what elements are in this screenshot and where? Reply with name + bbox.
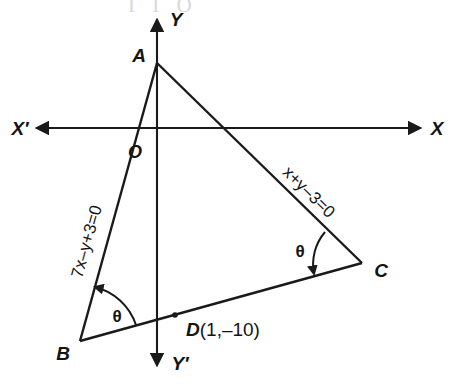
figure-root: I I O X′ X Y Y′ O A B C: [0, 0, 457, 384]
axis-label-y-negative: Y′: [171, 353, 190, 374]
angle-arc-c-group: [313, 232, 325, 274]
triangle-coordinate-diagram: X′ X Y Y′ O A B C 7x–y+3=0 x+y–3=0 θ: [0, 0, 457, 384]
axis-label-x-negative: X′: [10, 118, 30, 139]
angle-label-b: θ: [112, 307, 121, 326]
axis-label-y-positive: Y: [170, 9, 185, 30]
point-d-label: D(1,–10): [186, 319, 260, 340]
point-d-coordinates: (1,–10): [200, 319, 260, 340]
axes-group: [37, 20, 420, 365]
angle-label-c: θ: [295, 242, 304, 261]
point-d-marker: [172, 312, 178, 318]
point-d-name: D: [186, 319, 200, 340]
angle-arc-c: [313, 232, 325, 274]
axis-label-x-positive: X: [430, 118, 445, 139]
vertex-label-b: B: [56, 343, 70, 364]
vertex-label-c: C: [374, 260, 388, 281]
side-ac: [157, 63, 362, 263]
vertex-label-a: A: [131, 45, 146, 66]
